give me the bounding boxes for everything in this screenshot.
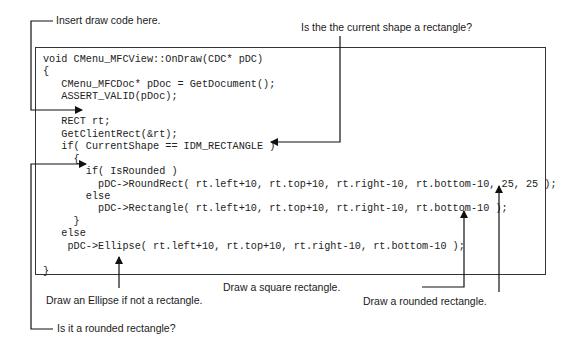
code-listing-box: void CMenu_MFCView::OnDraw(CDC* pDC) { C… (35, 47, 546, 275)
code-line: if( IsRounded ) (43, 166, 178, 177)
code-line: pDC->Rectangle( rt.left+10, rt.top+10, r… (43, 203, 508, 214)
annotation-draw-ellipse: Draw an Ellipse if not a rectangle. (46, 294, 202, 306)
annotation-insert-draw-code: Insert draw code here. (56, 14, 160, 26)
code-listing: void CMenu_MFCView::OnDraw(CDC* pDC) { C… (43, 54, 557, 278)
annotation-draw-square-rectangle: Draw a square rectangle. (223, 281, 340, 293)
code-line: pDC->Ellipse( rt.left+10, rt.top+10, rt.… (43, 241, 465, 252)
code-line: CMenu_MFCDoc* pDoc = GetDocument(); (43, 79, 275, 90)
annotation-is-current-shape-rectangle: Is the the current shape a rectangle? (301, 21, 472, 33)
code-line: if( CurrentShape == IDM_RECTANGLE ) (43, 141, 275, 152)
code-line: else (43, 228, 86, 239)
code-line: GetClientRect(&rt); (43, 129, 178, 140)
code-line: pDC->RoundRect( rt.left+10, rt.top+10, r… (43, 179, 557, 190)
annotation-draw-rounded-rectangle: Draw a rounded rectangle. (363, 295, 487, 307)
code-line: } (43, 216, 80, 227)
code-line: { (43, 154, 80, 165)
code-line: void CMenu_MFCView::OnDraw(CDC* pDC) (43, 54, 263, 65)
code-line: else (43, 191, 110, 202)
code-line: { (43, 66, 49, 77)
annotation-is-rounded-rectangle: Is it a rounded rectangle? (57, 322, 176, 334)
code-line: RECT rt; (43, 116, 110, 127)
code-line: ASSERT_VALID(pDoc); (43, 91, 178, 102)
code-line: } (43, 266, 49, 277)
